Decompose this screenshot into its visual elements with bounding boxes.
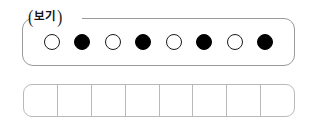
token-circle-6[interactable] (196, 34, 212, 50)
legend-tab: ( 보기 ) (28, 8, 62, 25)
answer-cell[interactable] (160, 85, 194, 116)
legend-label: 보기 (33, 11, 57, 23)
worksheet-container: ( 보기 ) (0, 0, 317, 128)
token-circle-2[interactable] (74, 34, 90, 50)
token-circle-1[interactable] (44, 34, 60, 50)
answer-cell[interactable] (92, 85, 126, 116)
legend-bracket-right-icon: ) (57, 7, 62, 26)
answer-grid (23, 84, 295, 117)
token-circle-4[interactable] (135, 34, 151, 50)
token-row (22, 18, 295, 66)
answer-cell[interactable] (193, 85, 227, 116)
answer-cell[interactable] (58, 85, 92, 116)
token-circle-7[interactable] (227, 34, 243, 50)
answer-cell[interactable] (24, 85, 58, 116)
legend-bracket-left-icon: ( (28, 7, 33, 26)
answer-cell[interactable] (126, 85, 160, 116)
token-circle-5[interactable] (166, 34, 182, 50)
token-circle-8[interactable] (257, 34, 273, 50)
token-circle-3[interactable] (105, 34, 121, 50)
answer-cell[interactable] (227, 85, 261, 116)
answer-cell[interactable] (261, 85, 294, 116)
